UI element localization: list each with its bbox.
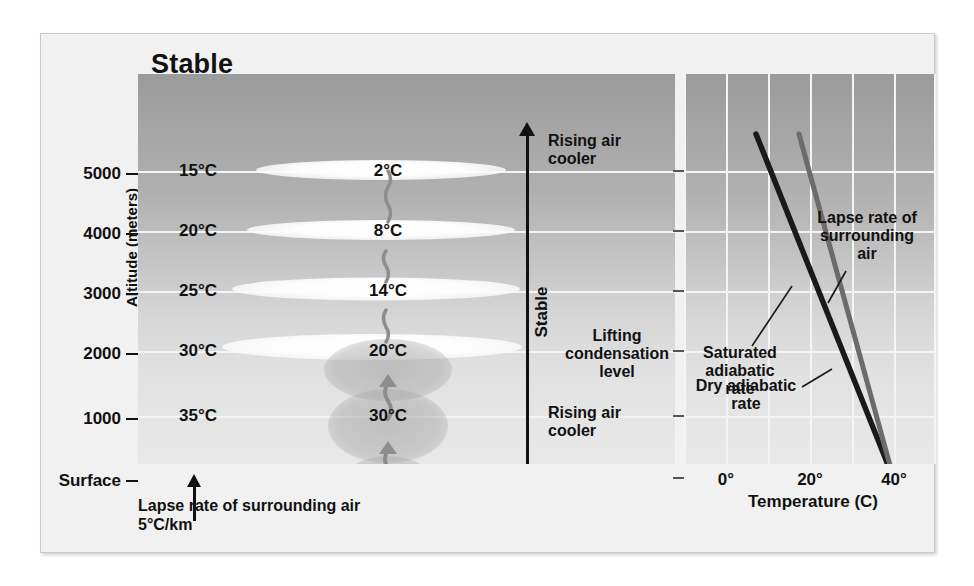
surrounding-temp-5000: 15°C <box>179 161 217 181</box>
adiabatic-rate-line <box>756 134 894 464</box>
tick-dash <box>126 418 138 420</box>
tick-dash <box>126 480 138 482</box>
gridline-v-30 <box>852 74 854 464</box>
x-tick-20: 20° <box>797 470 823 490</box>
air-parcel-1000 <box>328 389 448 463</box>
y-tick-4000: 4000 <box>0 224 138 244</box>
caption-lapse-rate: Lapse rate of surrounding air 5°C/km <box>138 496 360 534</box>
x-axis-title: Temperature (C) <box>748 492 878 512</box>
mid-tick-1000 <box>673 415 684 417</box>
y-tick-label: 5000 <box>83 164 121 183</box>
stable-arrow-head-icon <box>519 122 535 136</box>
figure-frame: Stable Altitude (meters) 5000 4000 3000 … <box>40 33 935 553</box>
y-tick-label: Surface <box>59 471 121 490</box>
y-tick-2000: 2000 <box>0 344 138 364</box>
tick-dash <box>126 353 138 355</box>
x-tick-40: 40° <box>881 470 907 490</box>
surrounding-temp-3000: 25°C <box>179 281 217 301</box>
air-parcel-surface <box>334 456 442 464</box>
parcel-temp-3000: 14°C <box>369 281 407 301</box>
y-tick-1000: 1000 <box>0 409 138 429</box>
x-tick-0: 0° <box>718 470 734 490</box>
surrounding-temp-4000: 20°C <box>179 221 217 241</box>
parcel-temp-2000: 20°C <box>369 341 407 361</box>
y-tick-5000: 5000 <box>0 164 138 184</box>
parcel-temp-1000: 30°C <box>369 406 407 426</box>
y-tick-label: 1000 <box>83 409 121 428</box>
mid-tick-5000 <box>673 170 684 172</box>
y-tick-label: 3000 <box>83 284 121 303</box>
tick-dash <box>126 173 138 175</box>
annotation-rising-air-bottom: Rising air cooler <box>548 404 621 440</box>
mid-tick-4000 <box>673 230 684 232</box>
atmosphere-panel: 15°C 20°C 25°C 30°C 35°C 40°C 2°C 8°C 14… <box>138 74 675 464</box>
y-tick-surface: Surface <box>0 471 138 491</box>
y-tick-3000: 3000 <box>0 284 138 304</box>
annotation-lifting-condensation-level: Lifting condensation level <box>548 327 675 382</box>
parcel-temp-5000: 2°C <box>374 161 403 181</box>
mid-tick-3000 <box>673 290 684 292</box>
parcel-temp-4000: 8°C <box>374 221 403 241</box>
stable-arrow-shaft <box>526 135 529 464</box>
gridline-v-40 <box>894 74 896 464</box>
mid-tick-surface <box>673 477 684 479</box>
annotation-rising-air-top: Rising air cooler <box>548 132 621 168</box>
gridline-v-50 <box>934 74 936 464</box>
leader-lapse-rate <box>828 271 846 303</box>
figure-root: Stable Altitude (meters) 5000 4000 3000 … <box>0 0 974 586</box>
label-lapse-rate-surrounding-air: Lapse rate of surrounding air <box>806 209 928 264</box>
y-tick-label: 4000 <box>83 224 121 243</box>
surrounding-temp-2000: 30°C <box>179 341 217 361</box>
label-dry-adiabatic-rate: Dry adiabatic rate <box>684 377 808 413</box>
gridline-v-20 <box>810 74 812 464</box>
surrounding-temp-1000: 35°C <box>179 406 217 426</box>
y-tick-label: 2000 <box>83 344 121 363</box>
surrounding-lapse-rate-line <box>799 134 894 464</box>
leader-saturated <box>752 286 792 346</box>
mid-tick-2000 <box>673 350 684 352</box>
tick-dash <box>126 233 138 235</box>
lapse-rate-chart-panel: Lapse rate of surrounding air Saturated … <box>684 74 936 464</box>
y-axis-ticks: 5000 4000 3000 2000 1000 Surface <box>0 34 138 552</box>
tick-dash <box>126 293 138 295</box>
